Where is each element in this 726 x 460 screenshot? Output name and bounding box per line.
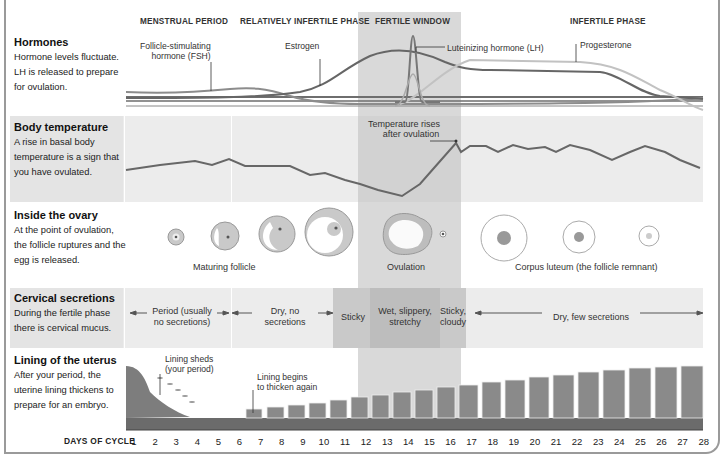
temperature-line [126,143,700,196]
day-tick-label: 13 [379,436,395,447]
day-tick-label: 15 [421,436,437,447]
day-tick-label: 24 [611,436,627,447]
day-tick-label: 14 [400,436,416,447]
day-tick-label: 11 [337,436,353,447]
day-tick-label: 26 [654,436,670,447]
day-tick-label: 27 [675,436,691,447]
day-tick-label: 3 [168,436,184,447]
ovulation-follicle [383,214,446,255]
days-of-cycle-label: DAYS OF CYCLE [64,436,135,446]
day-tick-label: 9 [295,436,311,447]
day-tick-label: 2 [147,436,163,447]
diagram-graphics [0,0,726,460]
day-tick-label: 19 [506,436,522,447]
day-tick-label: 8 [274,436,290,447]
day-tick-label: 4 [189,436,205,447]
uterus-leader-lines [160,374,253,413]
day-tick-label: 22 [569,436,585,447]
day-tick-label: 25 [632,436,648,447]
day-tick-label: 1 [126,436,142,447]
day-tick-label: 10 [316,436,332,447]
day-tick-label: 28 [696,436,712,447]
maturing-follicles [168,208,353,256]
day-tick-label: 18 [485,436,501,447]
day-tick-label: 7 [253,436,269,447]
hormone-curves [126,36,703,110]
cervical-arrows [130,311,703,315]
day-tick-label: 6 [232,436,248,447]
day-tick-label: 12 [358,436,374,447]
day-tick-label: 5 [210,436,226,447]
day-tick-label: 17 [464,436,480,447]
uterine-lining [126,366,703,430]
lh-spike [395,36,440,102]
day-tick-label: 23 [590,436,606,447]
day-tick-label: 20 [527,436,543,447]
day-tick-label: 21 [548,436,564,447]
day-tick-label: 16 [443,436,459,447]
corpus-luteum [481,215,659,261]
